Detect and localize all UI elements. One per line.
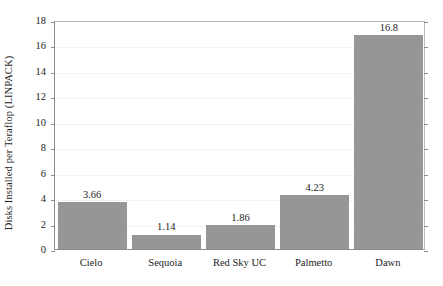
right-axis-tick-mark	[424, 251, 428, 252]
bar	[58, 202, 127, 249]
right-axis-tick-mark	[424, 98, 428, 99]
x-axis-category-label: Red Sky UC	[202, 257, 276, 269]
bar	[280, 195, 349, 249]
y-axis-tick-mark	[51, 251, 55, 252]
bar-value-label: 4.23	[280, 182, 349, 194]
y-axis-tick-mark	[51, 22, 55, 23]
y-axis-tick-label: 2	[16, 219, 46, 230]
bar-value-label: 16.8	[354, 22, 423, 34]
y-axis-tick-label: 6	[16, 168, 46, 179]
y-axis-tick-mark	[51, 149, 55, 150]
y-axis-tick-label: 4	[16, 193, 46, 204]
x-axis-category-label: Cielo	[54, 257, 128, 269]
y-axis-tick-label: 18	[16, 15, 46, 26]
bar	[354, 35, 423, 249]
y-axis-tick-label: 12	[16, 91, 46, 102]
y-axis-tick-mark	[51, 124, 55, 125]
right-axis-tick-mark	[424, 200, 428, 201]
x-axis-category-label: Sequoia	[128, 257, 202, 269]
bar-value-label: 1.86	[206, 212, 275, 224]
y-axis-tick-label: 16	[16, 40, 46, 51]
y-axis-tick-mark	[51, 98, 55, 99]
y-axis-tick-mark	[51, 200, 55, 201]
bar	[132, 235, 201, 250]
y-axis-tick-label: 0	[16, 244, 46, 255]
right-axis-tick-mark	[424, 73, 428, 74]
right-axis-tick-mark	[424, 22, 428, 23]
right-axis-tick-mark	[424, 226, 428, 227]
right-axis-tick-mark	[424, 149, 428, 150]
x-axis-category-label: Palmetto	[277, 257, 351, 269]
bar	[206, 225, 275, 249]
right-axis-tick-mark	[424, 124, 428, 125]
y-axis-tick-label: 14	[16, 66, 46, 77]
bar-value-label: 1.14	[132, 221, 201, 233]
y-axis-tick-mark	[51, 73, 55, 74]
right-axis-tick-mark	[424, 175, 428, 176]
y-axis-tick-mark	[51, 226, 55, 227]
plot-area: 3.661.141.864.2316.8	[54, 21, 425, 250]
y-axis-tick-mark	[51, 47, 55, 48]
bar-chart: Disks Installed per Teraflop (LINPACK) 0…	[0, 0, 443, 286]
bar-value-label: 3.66	[58, 189, 127, 201]
x-axis-category-label: Dawn	[351, 257, 425, 269]
y-axis-tick-label: 10	[16, 117, 46, 128]
right-axis-tick-mark	[424, 47, 428, 48]
y-axis-title: Disks Installed per Teraflop (LINPACK)	[0, 0, 16, 286]
y-axis-tick-mark	[51, 175, 55, 176]
y-axis-tick-label: 8	[16, 142, 46, 153]
